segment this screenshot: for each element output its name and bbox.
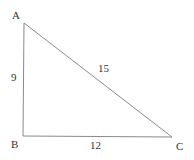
triangle-abc <box>23 23 172 137</box>
vertex-label-a: A <box>12 9 20 21</box>
side-label-bc: 12 <box>90 139 101 151</box>
vertex-label-c: C <box>176 140 183 152</box>
vertex-label-b: B <box>11 138 18 150</box>
side-label-ab: 9 <box>11 71 17 83</box>
side-label-ac: 15 <box>98 62 110 74</box>
triangle-diagram: A B C 9 15 12 <box>0 0 194 160</box>
